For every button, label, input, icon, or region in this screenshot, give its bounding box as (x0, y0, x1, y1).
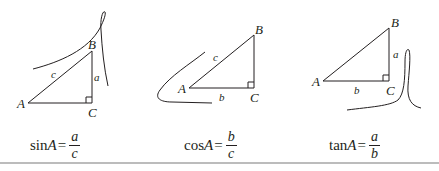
denominator: b (371, 146, 378, 161)
bottom-divider (0, 162, 439, 164)
vertex-b-tan: B (391, 16, 399, 29)
formula-cos: cos A = b c (184, 128, 237, 162)
vertex-a-tan: A (312, 75, 320, 88)
hand-curve-tan (347, 50, 421, 111)
function-name: cos (184, 137, 204, 154)
numerator: a (69, 130, 80, 146)
fraction: a b (369, 130, 380, 161)
side-c-sin: c (51, 69, 56, 80)
side-b-cos: b (219, 92, 225, 103)
fraction: a c (69, 130, 80, 161)
side-a-sin: a (94, 72, 100, 83)
triangle-cos (189, 35, 254, 88)
formula-tan: tan A = a b (329, 128, 380, 162)
side-a-tan: a (393, 49, 399, 60)
denominator: c (72, 146, 78, 161)
triangle-tan (323, 28, 389, 81)
function-name: tan (329, 137, 347, 154)
side-c-cos: c (213, 52, 218, 63)
angle-var: A (204, 137, 213, 154)
side-b-tan: b (354, 85, 360, 96)
vertex-c-tan: C (386, 84, 395, 97)
equals-sign: = (358, 137, 366, 154)
vertex-a-cos: A (178, 82, 186, 95)
numerator: b (226, 130, 237, 146)
angle-var: A (48, 137, 57, 154)
fraction: b c (226, 130, 237, 161)
formula-sin: sin A = a c (30, 128, 80, 162)
vertex-c-sin: C (88, 106, 97, 119)
vertex-b-cos: B (255, 23, 263, 36)
angle-var: A (347, 137, 356, 154)
numerator: a (369, 130, 380, 146)
denominator: c (228, 146, 234, 161)
equals-sign: = (214, 137, 222, 154)
equals-sign: = (58, 137, 66, 154)
vertex-c-cos: C (250, 91, 259, 104)
function-name: sin (30, 137, 48, 154)
triangle-sin (28, 51, 92, 103)
vertex-b-sin: B (88, 38, 96, 51)
vertex-a-sin: A (17, 97, 25, 110)
